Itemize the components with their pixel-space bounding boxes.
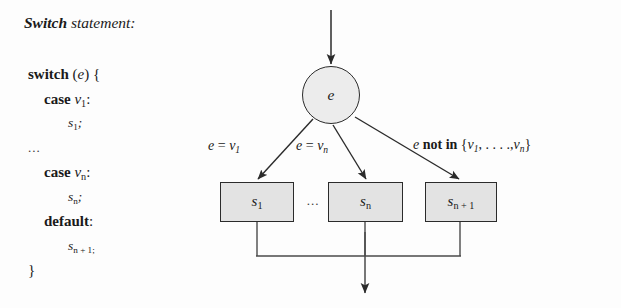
statement-box-sn-label: sn (360, 193, 371, 211)
statement-box-sn1-label: sn + 1 (448, 193, 475, 211)
edge-label-case-1: e = v1 (208, 138, 240, 155)
figure-switch-statement-flowchart: Switch statement: switch (e) { case v1: … (0, 0, 621, 308)
decision-node-label: e (328, 86, 335, 104)
edge-label-default: e not in {v1, . . . .,vn} (413, 137, 531, 154)
statement-box-sn1: sn + 1 (425, 182, 497, 222)
edge-label-case-n: e = vn (296, 138, 328, 155)
boxes-ellipsis: ... (301, 193, 325, 209)
statement-box-sn: sn (328, 182, 403, 222)
decision-node-e: e (302, 66, 360, 124)
branch-arrow-case-n (333, 125, 366, 179)
statement-box-s1: s1 (220, 182, 294, 222)
statement-box-s1-label: s1 (252, 193, 263, 211)
edge-label-not-in-keyword: not in (423, 137, 458, 152)
